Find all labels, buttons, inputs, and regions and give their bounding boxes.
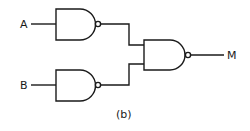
- output-label-m: M: [227, 49, 237, 62]
- nand-gate-3: [144, 40, 191, 70]
- figure-caption: (b): [116, 108, 132, 121]
- nand-gate-2: [56, 70, 101, 101]
- logic-circuit-diagram: A B M (b): [0, 0, 250, 131]
- wire-gate2-to-gate3: [101, 64, 144, 85]
- input-label-b: B: [20, 79, 28, 92]
- wire-gate1-to-gate3: [101, 24, 144, 45]
- input-label-a: A: [20, 18, 28, 31]
- nand-gate-1: [56, 9, 101, 40]
